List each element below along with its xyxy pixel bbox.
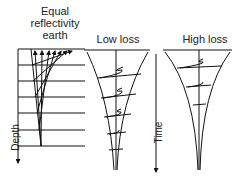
equal-reflectivity-panel xyxy=(18,49,85,163)
low-loss-panel xyxy=(84,50,156,172)
diagram-graphics xyxy=(0,0,244,178)
high-loss-panel xyxy=(163,50,232,170)
